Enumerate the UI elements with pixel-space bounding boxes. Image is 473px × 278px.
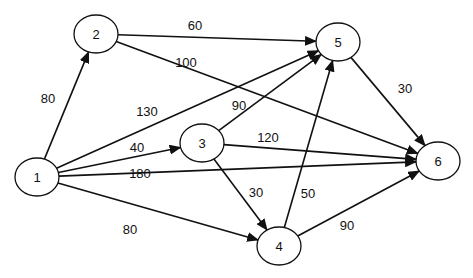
edges-layer [44,35,425,240]
edge-weight-label: 90 [340,218,354,233]
edge-weight-label: 120 [257,130,279,145]
node-4: 4 [257,227,301,265]
node-label: 3 [198,136,205,151]
nodes-layer: 123456 [15,15,460,265]
node-6: 6 [416,142,460,180]
edge-4-to-5 [284,60,332,227]
edge-1-to-4 [58,183,258,240]
edge-weight-label: 130 [136,104,158,119]
edge-4-to-6 [298,171,420,236]
graph-diagram: 801304018080601009012030509030 123456 [0,0,473,278]
node-2: 2 [74,15,118,53]
edge-weight-label: 30 [398,81,412,96]
node-label: 5 [334,35,341,50]
node-label: 2 [92,27,99,42]
edge-weight-label: 180 [129,166,151,181]
edge-weight-label: 60 [188,18,202,33]
edge-weight-label: 30 [249,185,263,200]
edge-weight-label: 40 [130,140,144,155]
node-3: 3 [180,124,224,162]
edge-3-to-6 [224,145,416,160]
edge-3-to-5 [219,54,322,130]
node-label: 1 [33,170,40,185]
edge-1-to-2 [44,52,88,159]
edge-weight-label: 80 [41,91,55,106]
edge-weight-label: 90 [232,98,246,113]
edge-weight-label: 50 [301,186,315,201]
edge-2-to-5 [118,35,316,42]
node-label: 6 [434,154,441,169]
node-label: 4 [275,239,282,254]
node-5: 5 [316,23,360,61]
node-1: 1 [15,158,59,196]
edge-weight-label: 100 [175,55,197,70]
edge-1-to-6 [59,162,416,176]
edge-weight-label: 80 [123,222,137,237]
